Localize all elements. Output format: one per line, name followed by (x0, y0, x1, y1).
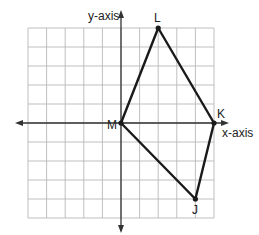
vertex-point-M (118, 120, 123, 125)
vertex-label-K: K (217, 107, 225, 121)
x-axis-left-arrow-icon (15, 120, 23, 126)
coordinate-plane: y-axis x-axis M L K J (0, 0, 259, 235)
quadrilateral-MLKJ (121, 28, 214, 199)
x-axis-label: x-axis (222, 126, 253, 140)
vertex-label-J: J (192, 203, 198, 217)
y-axis-label: y-axis (88, 9, 119, 23)
y-axis-down-arrow-icon (118, 225, 124, 233)
vertex-label-M: M (107, 118, 117, 132)
vertex-label-L: L (154, 11, 161, 25)
vertex-point-J (193, 196, 198, 201)
vertex-point-L (156, 25, 161, 30)
polygon-outline (121, 28, 214, 199)
vertex-point-K (211, 120, 216, 125)
